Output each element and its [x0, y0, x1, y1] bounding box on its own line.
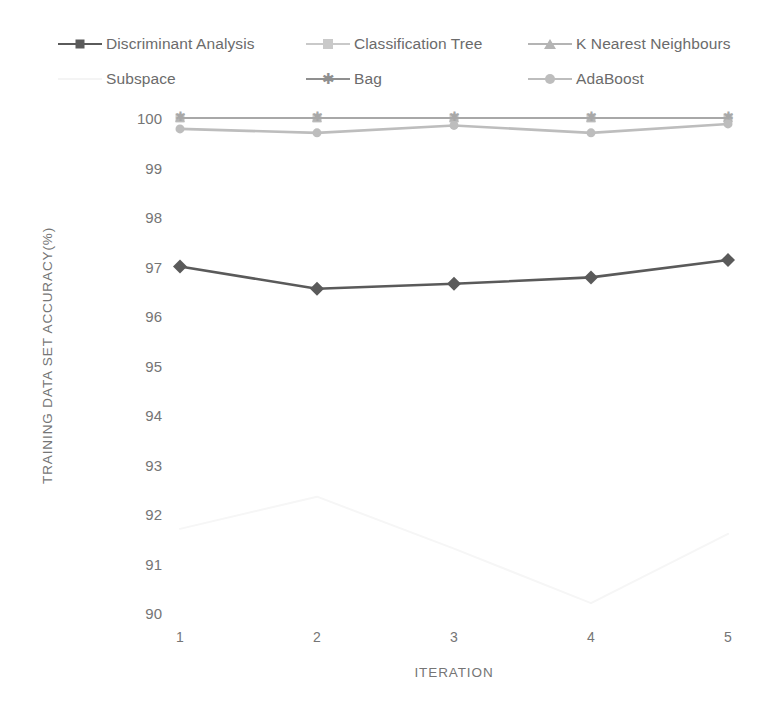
data-point-marker: [721, 253, 735, 267]
data-point-marker: [313, 128, 322, 137]
series-line: [180, 497, 728, 603]
data-point-marker: [447, 277, 461, 291]
data-point-marker: ✱: [312, 109, 323, 124]
x-axis-tick-label: 1: [176, 629, 184, 645]
y-axis-tick-label: 96: [102, 308, 162, 325]
data-point-marker: ✱: [175, 109, 186, 124]
series-subspace: [180, 497, 728, 603]
y-axis-tick-label: 99: [102, 159, 162, 176]
data-point-marker: [173, 260, 187, 274]
data-point-marker: [450, 121, 459, 130]
plot-area: ✱✱✱✱✱ 90919293949596979899100 12345 ITER…: [0, 0, 764, 703]
y-axis-tick-label: 97: [102, 258, 162, 275]
y-axis-tick-label: 98: [102, 209, 162, 226]
y-axis-tick-label: 93: [102, 456, 162, 473]
data-point-marker: [584, 270, 598, 284]
data-point-marker: ✱: [586, 109, 597, 124]
y-axis-tick-label: 92: [102, 506, 162, 523]
data-point-marker: [310, 282, 324, 296]
series-adaboost: [176, 119, 733, 137]
data-point-marker: [724, 119, 733, 128]
y-axis-tick-label: 100: [102, 110, 162, 127]
x-axis-title: ITERATION: [414, 665, 493, 680]
y-axis-tick-label: 91: [102, 555, 162, 572]
x-axis-tick-label: 3: [450, 629, 458, 645]
y-axis-title: TRAINING DATA SET ACCURACY(%): [40, 226, 55, 483]
data-point-marker: [176, 124, 185, 133]
y-axis-tick-label: 90: [102, 605, 162, 622]
plot-svg: ✱✱✱✱✱: [0, 0, 764, 703]
series-discriminant-analysis: [173, 253, 735, 296]
x-axis-tick-label: 4: [587, 629, 595, 645]
y-axis-tick-label: 95: [102, 357, 162, 374]
line-chart: Discriminant Analysis Classification Tre…: [0, 0, 764, 703]
data-point-marker: [587, 128, 596, 137]
x-axis-tick-label: 5: [724, 629, 732, 645]
y-axis-tick-label: 94: [102, 407, 162, 424]
x-axis-tick-label: 2: [313, 629, 321, 645]
